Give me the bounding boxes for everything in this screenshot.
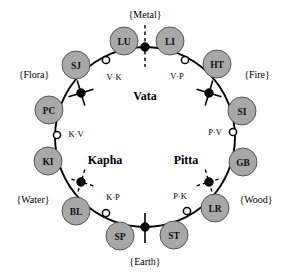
- dosha-labels-layer: VataKaphaPitta: [88, 89, 199, 167]
- k-v-junction-dot[interactable]: [53, 131, 60, 138]
- organ-node-ki[interactable]: KI: [34, 147, 62, 175]
- wood-element-label: {Wood}: [239, 194, 272, 205]
- organ-node-lr[interactable]: LR: [201, 194, 229, 222]
- water-node-dot[interactable]: [77, 178, 85, 186]
- organ-label-li: LI: [165, 37, 175, 47]
- organ-node-sp[interactable]: SP: [106, 222, 134, 250]
- junction-nodes-layer: V·PP·VP·KK·PK·VV·K: [53, 56, 236, 216]
- organ-label-si: SI: [238, 107, 247, 117]
- k-p-junction-dot[interactable]: [102, 209, 109, 216]
- earth-element-label: {Earth}: [129, 256, 160, 267]
- fire-node-dot[interactable]: [205, 89, 213, 97]
- organ-node-pc[interactable]: PC: [35, 96, 63, 124]
- dosha-label-vata: Vata: [133, 89, 157, 103]
- diagram-canvas: V·PP·VP·KK·PK·VV·K {Metal}{Fire}{Wood}{E…: [0, 0, 291, 277]
- fire-element-label: {Fire}: [244, 69, 270, 80]
- p-k-junction-label: P·K: [173, 191, 188, 201]
- organ-node-bl[interactable]: BL: [62, 197, 90, 225]
- p-k-junction-dot[interactable]: [183, 207, 190, 214]
- k-v-junction-label: K·V: [68, 129, 84, 139]
- organ-node-ht[interactable]: HT: [203, 50, 231, 78]
- organ-label-st: ST: [168, 231, 180, 241]
- dosha-label-kapha: Kapha: [88, 153, 123, 167]
- v-p-junction-label: V·P: [170, 71, 184, 81]
- organ-label-pc: PC: [43, 106, 56, 116]
- organ-node-gb[interactable]: GB: [229, 148, 257, 176]
- organ-label-lu: LU: [117, 37, 130, 47]
- k-p-junction-label: K·P: [106, 192, 120, 202]
- circular-element-dosha-diagram: V·PP·VP·KK·PK·VV·K {Metal}{Fire}{Wood}{E…: [0, 0, 291, 277]
- organ-label-gb: GB: [236, 158, 250, 168]
- earth-node-dot[interactable]: [141, 223, 149, 231]
- dosha-label-pitta: Pitta: [174, 153, 199, 167]
- organ-node-si[interactable]: SI: [228, 97, 256, 125]
- organ-node-lu[interactable]: LU: [110, 27, 138, 55]
- organ-label-bl: BL: [70, 207, 83, 217]
- organ-label-ki: KI: [42, 157, 53, 167]
- v-k-junction-dot[interactable]: [102, 56, 109, 63]
- v-k-junction-label: V·K: [106, 72, 122, 82]
- organ-node-st[interactable]: ST: [160, 221, 188, 249]
- metal-element-label: {Metal}: [129, 9, 162, 20]
- p-v-junction-label: P·V: [208, 127, 223, 137]
- flora-element-label: {Flora}: [19, 69, 50, 80]
- organ-label-sj: SJ: [71, 61, 81, 71]
- flora-node-dot[interactable]: [77, 89, 85, 97]
- wood-node-dot[interactable]: [205, 178, 213, 186]
- metal-node-dot[interactable]: [141, 43, 149, 51]
- water-element-label: {Water}: [16, 194, 49, 205]
- organ-label-sp: SP: [114, 232, 125, 242]
- organ-node-sj[interactable]: SJ: [62, 51, 90, 79]
- organ-label-lr: LR: [208, 204, 221, 214]
- p-v-junction-dot[interactable]: [229, 128, 236, 135]
- organ-node-li[interactable]: LI: [156, 27, 184, 55]
- organ-label-ht: HT: [210, 60, 224, 70]
- v-p-junction-dot[interactable]: [181, 56, 188, 63]
